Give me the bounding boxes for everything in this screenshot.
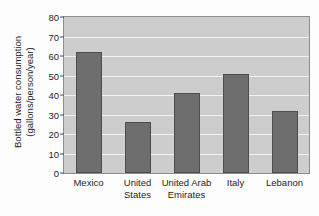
y-axis-title-line-2: (gallons/person/year)	[24, 4, 36, 180]
x-axis-labels: MexicoUnitedStatesUnited ArabEmiratesIta…	[63, 177, 310, 213]
y-tick-label: 20	[48, 129, 59, 140]
y-tick-mark	[60, 95, 64, 96]
y-tick-label: 40	[48, 90, 59, 101]
x-axis-label: United ArabEmirates	[162, 177, 212, 201]
y-tick-mark	[60, 56, 64, 57]
y-tick-mark	[60, 173, 64, 174]
x-axis-label: Italy	[227, 177, 244, 189]
plot-area: 01020304050607080	[63, 16, 310, 174]
y-axis-title: Bottled water consumption (gallons/perso…	[12, 4, 36, 180]
y-tick-label: 60	[48, 51, 59, 62]
x-axis-label-line: United Arab	[162, 177, 212, 189]
y-tick-label: 10	[48, 148, 59, 159]
x-axis-label-line: United	[124, 177, 151, 189]
bar	[174, 93, 200, 173]
bar	[76, 52, 102, 173]
y-tick-label: 0	[54, 168, 59, 179]
x-axis-label-line: Mexico	[73, 177, 103, 189]
x-axis-label: UnitedStates	[124, 177, 151, 201]
y-tick-label: 30	[48, 109, 59, 120]
bar	[272, 111, 298, 173]
y-tick-mark	[60, 114, 64, 115]
y-tick-mark	[60, 36, 64, 37]
y-tick-mark	[60, 17, 64, 18]
x-axis-label: Lebanon	[266, 177, 303, 189]
x-axis-label: Mexico	[73, 177, 103, 189]
gridline	[64, 37, 309, 38]
x-axis-label-line: Italy	[227, 177, 244, 189]
y-tick-mark	[60, 134, 64, 135]
bar	[125, 122, 151, 173]
y-tick-label: 50	[48, 70, 59, 81]
x-axis-label-line: Lebanon	[266, 177, 303, 189]
y-tick-mark	[60, 153, 64, 154]
y-tick-label: 70	[48, 31, 59, 42]
x-axis-label-line: States	[124, 189, 151, 201]
x-axis-label-line: Emirates	[162, 189, 212, 201]
y-tick-label: 80	[48, 12, 59, 23]
y-axis-title-line-1: Bottled water consumption	[12, 4, 24, 180]
bar-chart: Bottled water consumption (gallons/perso…	[0, 0, 319, 216]
y-tick-mark	[60, 75, 64, 76]
bar	[223, 74, 249, 173]
